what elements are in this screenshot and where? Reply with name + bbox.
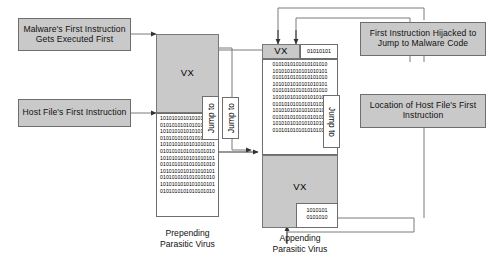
- callout-host-first-instruction-label: Host File's First Instruction: [23, 108, 127, 118]
- appending-footer-binary: 1010101 0101010: [296, 203, 338, 228]
- appending-vx-label: VX: [293, 182, 306, 193]
- appending-jump-to-right-box[interactable]: Jump to: [323, 95, 340, 148]
- prepending-vx-label: VX: [181, 68, 194, 79]
- callout-first-instruction-hijacked-label: First Instruction Hijacked to Jump to Ma…: [370, 29, 477, 49]
- callout-malware-first-instruction[interactable]: Malware's First Instruction Gets Execute…: [18, 18, 131, 51]
- appending-header-binary: 01010101: [300, 44, 338, 59]
- appending-jump-to-left-box[interactable]: Jump to: [202, 96, 219, 140]
- appending-vx-header-label: VX: [274, 46, 287, 57]
- callout-location-host-first-instruction-label: Location of Host File's First Instructio…: [370, 101, 476, 121]
- appending-jump-to-left-label: Jump to: [206, 103, 216, 133]
- prepending-caption: Prepending Parasitic Virus: [141, 228, 234, 249]
- prepending-jump-to-label: Jump to: [226, 103, 236, 133]
- callout-first-instruction-hijacked[interactable]: First Instruction Hijacked to Jump to Ma…: [360, 22, 486, 56]
- diagram-canvas: Malware's First Instruction Gets Execute…: [0, 0, 493, 274]
- callout-location-host-first-instruction[interactable]: Location of Host File's First Instructio…: [360, 94, 486, 128]
- appending-vx-header[interactable]: VX: [262, 44, 300, 59]
- callout-host-first-instruction[interactable]: Host File's First Instruction: [18, 99, 131, 127]
- appending-jump-to-right-label: Jump to: [327, 107, 337, 137]
- wire-prepend-jump-in: [219, 48, 232, 97]
- callout-malware-first-instruction-label: Malware's First Instruction Gets Execute…: [23, 25, 125, 45]
- appending-caption: Appending Parasitic Virus: [252, 233, 348, 254]
- prepending-jump-to-box[interactable]: Jump to: [222, 97, 239, 139]
- wire-prepend-jump-out: [232, 139, 251, 150]
